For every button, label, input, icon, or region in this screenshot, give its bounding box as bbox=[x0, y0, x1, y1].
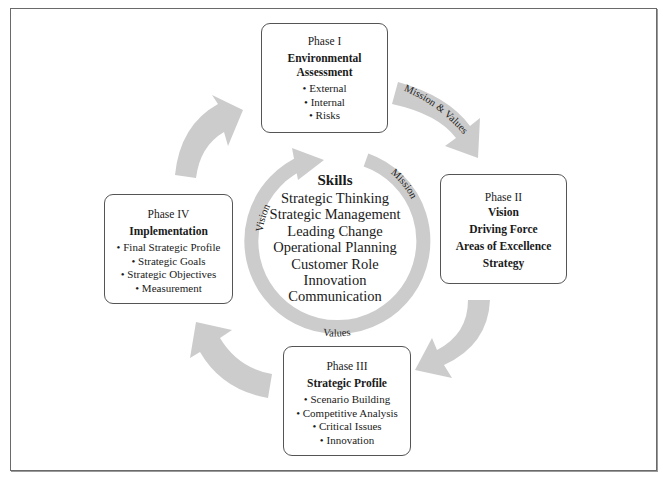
skills-panel: Skills Strategic Thinking Strategic Mana… bbox=[245, 170, 425, 305]
phase-1-item: Risks bbox=[262, 109, 387, 123]
phase-3-title: Strategic Profile bbox=[284, 376, 410, 390]
phase-1-label: Phase I bbox=[262, 34, 387, 48]
skill-item: Leading Change bbox=[245, 223, 425, 239]
phase-4-label: Phase IV bbox=[105, 207, 232, 221]
phase-1-item: Internal bbox=[262, 96, 387, 110]
phase-3-item: Scenario Building bbox=[284, 393, 410, 407]
phase-4-item: Measurement bbox=[105, 282, 232, 296]
arrow-phase4-to-phase1 bbox=[175, 95, 243, 178]
phase-4-item: Strategic Goals bbox=[105, 255, 232, 269]
arrow-phase2-to-phase3 bbox=[415, 300, 490, 378]
phase-1-title-line-2: Assessment bbox=[262, 65, 387, 79]
skill-item: Customer Role bbox=[245, 256, 425, 272]
phase-3-label: Phase III bbox=[284, 359, 410, 373]
phase-4-title: Implementation bbox=[105, 224, 232, 238]
phase-1-item: External bbox=[262, 82, 387, 96]
phase-3-item: Critical Issues bbox=[284, 420, 410, 434]
skill-item: Communication bbox=[245, 288, 425, 304]
phase-2-line: Strategy bbox=[441, 255, 566, 272]
skill-item: Strategic Management bbox=[245, 206, 425, 222]
phase-2-box: Phase II Vision Driving Force Areas of E… bbox=[440, 174, 567, 284]
skill-item: Innovation bbox=[245, 272, 425, 288]
phase-4-item: Strategic Objectives bbox=[105, 268, 232, 282]
skills-title: Skills bbox=[245, 170, 425, 190]
phase-3-item: Competitive Analysis bbox=[284, 407, 410, 421]
phase-2-label: Phase II bbox=[441, 190, 566, 204]
phase-3-box: Phase III Strategic Profile Scenario Bui… bbox=[283, 346, 411, 456]
phase-2-line: Driving Force bbox=[441, 221, 566, 238]
skill-item: Strategic Thinking bbox=[245, 190, 425, 206]
phase-2-line: Areas of Excellence bbox=[441, 238, 566, 255]
phase-1-title-line-1: Environmental bbox=[262, 51, 387, 65]
phase-4-item: Final Strategic Profile bbox=[105, 241, 232, 255]
arrow-phase3-to-phase4 bbox=[190, 322, 272, 398]
phase-3-item: Innovation bbox=[284, 434, 410, 448]
skill-item: Operational Planning bbox=[245, 239, 425, 255]
phase-1-box: Phase I Environmental Assessment Externa… bbox=[261, 23, 388, 133]
phase-4-box: Phase IV Implementation Final Strategic … bbox=[104, 194, 233, 304]
ring-label-values: Values bbox=[322, 326, 351, 338]
phase-2-line: Vision bbox=[441, 204, 566, 221]
